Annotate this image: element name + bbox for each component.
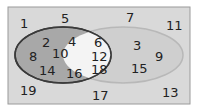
set-b-number: 3: [133, 38, 141, 53]
intersection-number: 18: [91, 62, 108, 77]
outside-number: 1: [20, 16, 28, 31]
set-a-number: 4: [68, 34, 76, 49]
outside-number: 13: [162, 85, 179, 100]
outside-number: 11: [166, 18, 183, 33]
outside-number: 19: [20, 83, 37, 98]
venn-diagram: 1 5 7 11 19 17 13 2 4 8 10 14 16 6 12 18…: [0, 0, 198, 107]
set-a-number: 14: [39, 63, 56, 78]
set-b-number: 9: [155, 49, 163, 64]
set-a-number: 16: [66, 66, 83, 81]
set-a-number: 8: [29, 49, 37, 64]
set-a-number: 10: [52, 46, 69, 61]
intersection-number: 6: [94, 35, 102, 50]
outside-number: 17: [92, 88, 109, 103]
set-b-number: 15: [131, 61, 148, 76]
outside-number: 5: [61, 11, 69, 26]
set-a-number: 2: [42, 35, 50, 50]
outside-number: 7: [126, 10, 134, 25]
